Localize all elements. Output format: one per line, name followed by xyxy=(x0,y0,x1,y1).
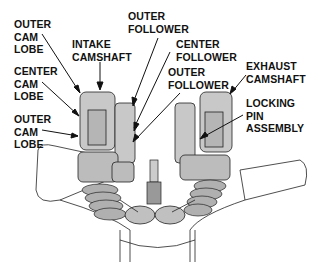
label-outer-follower-mid: OUTER FOLLOWER xyxy=(168,66,229,91)
label-outer-cam-lobe-bottom: OUTER CAM LOBE xyxy=(14,113,51,151)
label-intake-camshaft: INTAKE CAMSHAFT xyxy=(72,38,132,63)
label-center-follower: CENTER FOLLOWER xyxy=(176,38,237,63)
label-outer-cam-lobe-top: OUTER CAM LOBE xyxy=(14,18,51,56)
label-center-cam-lobe: CENTER CAM LOBE xyxy=(14,65,58,103)
label-exhaust-camshaft: EXHAUST CAMSHAFT xyxy=(246,60,306,85)
intake-camshaft-assembly xyxy=(78,92,135,182)
spark-plug xyxy=(147,160,161,204)
label-locking-pin-assembly: LOCKING PIN ASSEMBLY xyxy=(246,97,304,135)
label-outer-follower-top: OUTER FOLLOWER xyxy=(128,10,189,35)
